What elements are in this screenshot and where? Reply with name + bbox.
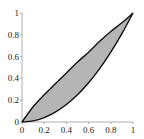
x-tick-label: 1 <box>131 125 136 135</box>
y-tick-label: 1 <box>15 8 20 18</box>
x-tick-label: 0 <box>20 125 25 135</box>
shaded-area <box>22 13 133 122</box>
x-tick-label: 0.8 <box>105 125 117 135</box>
lorenz-style-chart: 00.20.40.60.81 00.20.40.60.81 <box>0 0 144 139</box>
y-tick-label: 0.8 <box>8 30 20 40</box>
x-tick-labels: 00.20.40.60.81 <box>20 122 136 135</box>
y-tick-labels: 00.20.40.60.81 <box>8 8 22 127</box>
x-tick-label: 0.2 <box>39 125 50 135</box>
y-tick-label: 0.6 <box>8 52 20 62</box>
x-tick-label: 0.6 <box>83 125 95 135</box>
y-tick-label: 0.2 <box>8 95 19 105</box>
y-tick-label: 0.4 <box>8 73 20 83</box>
x-tick-label: 0.4 <box>61 125 73 135</box>
y-tick-label: 0 <box>15 117 20 127</box>
